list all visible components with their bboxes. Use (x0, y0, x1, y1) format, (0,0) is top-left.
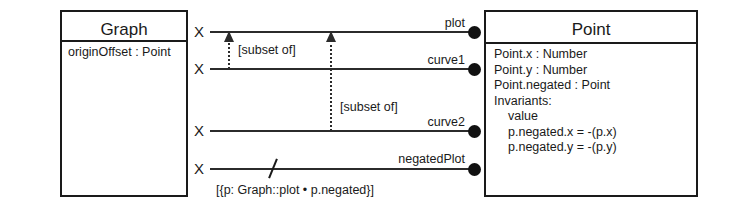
subset-arrow-head-icon (326, 31, 336, 42)
association-line-curve1[interactable] (210, 68, 475, 70)
derivation-constraint-expression: [{p: Graph::plot • p.negated}] (216, 184, 374, 197)
attribute-list-point: Point.x : Number Point.y : Number Point.… (486, 47, 696, 156)
class-divider-graph (62, 40, 186, 42)
class-divider-point (486, 42, 696, 44)
class-box-graph[interactable]: Graph originOffset : Point (60, 10, 188, 197)
invariant-negated-y: p.negated.y = -(p.y) (494, 140, 696, 156)
role-name-curve1: curve1 (375, 54, 465, 67)
association-line-plot[interactable] (210, 31, 475, 33)
association-end-dot-curve1 (468, 63, 481, 76)
association-line-negated-plot[interactable] (210, 168, 475, 170)
attribute-point-negated: Point.negated : Point (494, 78, 696, 94)
subset-of-arrow-curve2-to-plot[interactable] (330, 31, 340, 131)
association-line-curve2[interactable] (210, 130, 475, 132)
subset-arrow-head-icon (224, 31, 234, 42)
class-box-point[interactable]: Point Point.x : Number Point.y : Number … (484, 10, 698, 197)
invariants-heading: Invariants: (494, 94, 696, 110)
attribute-point-x: Point.x : Number (494, 47, 696, 63)
multiplicity-marker-plot: X (194, 24, 204, 39)
uml-class-diagram: Graph originOffset : Point Point Point.x… (0, 0, 735, 216)
association-end-dot-plot (468, 26, 481, 39)
subset-arrow-stem-icon (330, 40, 332, 131)
attribute-point-y: Point.y : Number (494, 63, 696, 79)
role-name-curve2: curve2 (375, 116, 465, 129)
multiplicity-marker-curve2: X (194, 123, 204, 138)
subset-of-arrow-curve1-to-plot[interactable] (228, 31, 238, 69)
class-name-graph: Graph (62, 21, 186, 38)
subset-of-label-curve2: [subset of] (340, 101, 398, 114)
attribute-origin-offset: originOffset : Point (62, 45, 186, 61)
multiplicity-marker-curve1: X (194, 61, 204, 76)
class-name-point: Point (486, 21, 696, 38)
subset-of-label-curve1: [subset of] (238, 44, 296, 57)
invariant-value: value (494, 109, 696, 125)
invariant-negated-x: p.negated.x = -(p.x) (494, 125, 696, 141)
attribute-list-graph: originOffset : Point (62, 45, 186, 61)
association-end-dot-curve2 (468, 125, 481, 138)
association-end-dot-negated-plot (468, 163, 481, 176)
role-name-negated-plot: negatedPlot (355, 153, 465, 166)
multiplicity-marker-negated-plot: X (194, 161, 204, 176)
role-name-plot: plot (375, 17, 465, 30)
subset-arrow-stem-icon (228, 40, 230, 69)
